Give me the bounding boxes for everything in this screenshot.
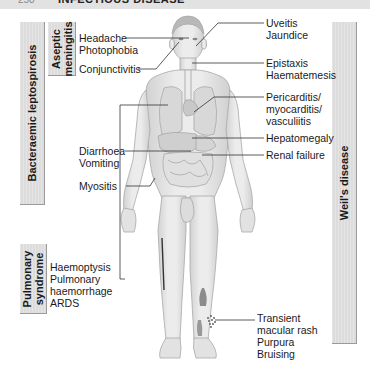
left-arm	[226, 90, 253, 212]
head	[170, 16, 207, 70]
label-pulmonary-syndrome-items: Haemoptysis Pulmonary haemorrhage ARDS	[50, 261, 112, 309]
label-skin-findings: Transient macular rash Purpura Bruising	[257, 312, 318, 360]
label-hepatomegaly: Hepatomegaly	[266, 132, 334, 144]
label-uveitis: Uveitis Jaundice	[266, 17, 308, 41]
label-epistaxis: Epistaxis Haematemesis	[266, 57, 336, 81]
label-renal-failure: Renal failure	[266, 149, 325, 161]
label-diarrhoea: Diarrhoea Vomiting	[79, 145, 125, 169]
label-conjunctivitis: Conjunctivitis	[79, 63, 141, 75]
label-myositis: Myositis	[79, 180, 117, 192]
label-headache: Headache Photophobia	[79, 32, 138, 56]
label-pericarditis: Pericarditis/ myocarditis/ vasculiitis	[266, 91, 322, 127]
